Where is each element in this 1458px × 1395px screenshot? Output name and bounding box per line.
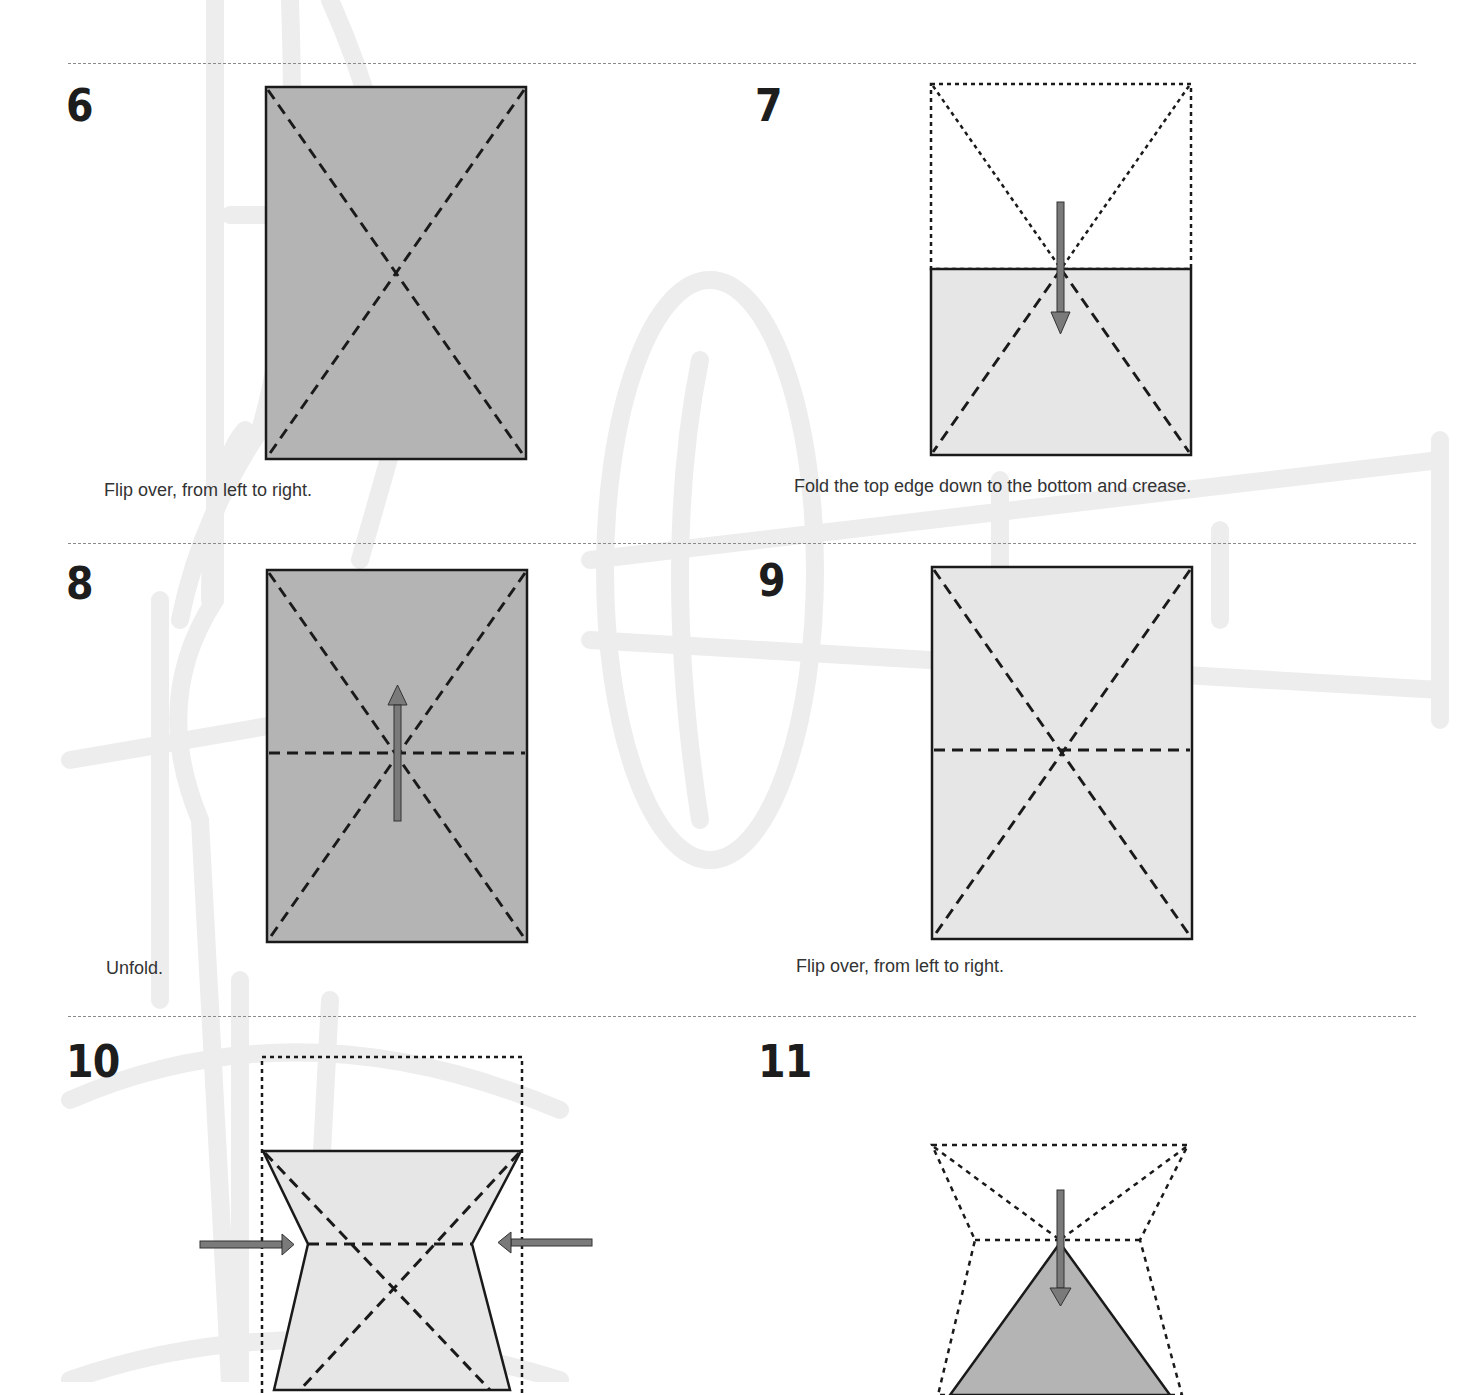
section-divider [68,1016,1416,1017]
left-arrow-icon [498,1232,592,1253]
section-divider [68,63,1416,64]
step-9-diagram [926,562,1201,947]
step-8-diagram [261,565,536,950]
down-arrow-icon [1050,1190,1071,1306]
step-caption: Unfold. [106,958,163,979]
step-caption: Flip over, from left to right. [104,480,312,501]
step-10-diagram [190,1050,610,1390]
step-11-diagram [920,1135,1210,1395]
step-caption: Fold the top edge down to the bottom and… [794,476,1191,497]
step-number: 10 [66,1036,119,1087]
step-7-diagram [925,78,1200,463]
step-number: 11 [758,1036,811,1087]
step-number: 9 [758,555,785,606]
step-caption: Flip over, from left to right. [796,956,1004,977]
right-arrow-icon [200,1234,294,1255]
section-divider [68,543,1416,544]
step-number: 6 [66,80,93,131]
step-6-diagram [260,82,535,467]
step-number: 8 [66,558,93,609]
step-number: 7 [755,80,782,131]
